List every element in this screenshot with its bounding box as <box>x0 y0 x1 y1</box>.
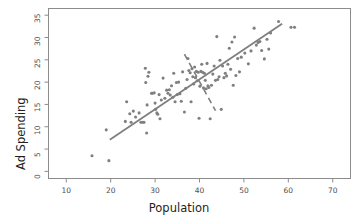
data-point <box>197 71 200 74</box>
data-point <box>105 128 108 131</box>
dashed-reference-line <box>184 54 215 111</box>
data-point <box>125 100 128 103</box>
data-point <box>232 84 235 87</box>
x-tick-label: 60 <box>280 186 296 195</box>
data-point <box>198 117 201 120</box>
data-point <box>229 68 232 71</box>
data-point <box>154 102 157 105</box>
data-point <box>220 108 223 111</box>
data-point <box>165 89 168 92</box>
data-point <box>205 87 208 90</box>
plot-frame <box>49 9 351 179</box>
y-tick-label: 10 <box>33 125 42 135</box>
data-point <box>247 62 250 65</box>
x-axis-title: Population <box>0 201 358 215</box>
data-point <box>142 121 145 124</box>
data-point <box>236 57 239 60</box>
data-point <box>240 56 243 59</box>
data-point <box>145 131 148 134</box>
data-point <box>233 36 236 39</box>
data-point <box>90 154 93 157</box>
data-point <box>153 91 156 94</box>
plot-area <box>0 0 358 224</box>
regression-line <box>110 24 282 140</box>
data-point <box>128 112 131 115</box>
data-point <box>172 72 175 75</box>
data-point <box>202 86 205 89</box>
data-point <box>170 84 173 87</box>
data-point <box>192 82 195 85</box>
data-point <box>206 62 209 65</box>
data-point <box>158 117 161 120</box>
data-point <box>144 67 147 70</box>
data-point <box>191 75 194 78</box>
data-point <box>144 81 147 84</box>
data-point <box>184 87 187 90</box>
data-point <box>293 26 296 29</box>
data-point <box>160 98 163 101</box>
data-point <box>228 47 231 50</box>
data-point <box>255 44 258 47</box>
data-point <box>258 40 261 43</box>
data-point <box>146 103 149 106</box>
y-tick-label: 0 <box>33 175 42 180</box>
data-point <box>267 48 270 51</box>
x-tick-label: 20 <box>103 186 119 195</box>
axis-ticks <box>45 15 333 182</box>
data-point <box>176 93 179 96</box>
data-point <box>154 108 157 111</box>
data-point <box>210 84 213 87</box>
data-point <box>238 70 241 73</box>
data-point <box>289 26 292 29</box>
data-point <box>218 59 221 62</box>
data-point <box>213 65 216 68</box>
x-tick-label: 70 <box>325 186 341 195</box>
data-point <box>178 92 181 95</box>
data-point <box>253 27 256 30</box>
data-point <box>171 96 174 99</box>
data-point <box>198 85 201 88</box>
data-point <box>263 57 266 60</box>
data-point <box>216 78 219 81</box>
x-tick-label: 10 <box>58 186 74 195</box>
data-point <box>211 73 214 76</box>
data-point <box>260 49 263 52</box>
data-point <box>163 97 166 100</box>
data-point <box>249 49 252 52</box>
data-point <box>222 76 225 79</box>
scatter-chart: Population Ad Spending 10203040506070051… <box>0 0 358 224</box>
data-point <box>177 81 180 84</box>
data-point <box>193 65 196 68</box>
data-point <box>181 70 184 73</box>
data-point <box>277 20 280 23</box>
data-point <box>225 74 228 77</box>
data-point <box>203 72 206 75</box>
y-axis-title: Ad Spending <box>14 97 28 170</box>
x-tick-label: 30 <box>147 186 163 195</box>
data-point <box>146 75 149 78</box>
data-point <box>124 120 127 123</box>
data-point <box>147 71 150 74</box>
data-point <box>234 74 237 77</box>
data-point <box>186 78 189 81</box>
data-point <box>196 79 199 82</box>
data-point <box>130 121 133 124</box>
data-point <box>189 71 192 74</box>
data-point <box>204 79 207 82</box>
data-point <box>194 76 197 79</box>
data-point <box>265 38 268 41</box>
data-point <box>174 100 177 103</box>
data-point <box>209 117 212 120</box>
data-point <box>156 113 159 116</box>
data-point <box>158 93 161 96</box>
y-tick-label: 35 <box>33 14 42 24</box>
y-tick-label: 20 <box>33 81 42 91</box>
data-point <box>180 100 183 103</box>
data-point <box>107 159 110 162</box>
y-tick-label: 15 <box>33 103 42 113</box>
data-points <box>90 20 296 162</box>
y-tick-label: 5 <box>33 152 42 157</box>
data-point <box>186 57 189 60</box>
y-tick-label: 30 <box>33 36 42 46</box>
data-point <box>138 111 141 114</box>
